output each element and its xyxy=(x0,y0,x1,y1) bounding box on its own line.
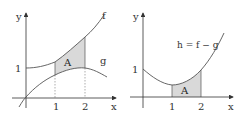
x-tick-2: 2 xyxy=(82,101,88,112)
right-panel: y x 1 1 2 h = f − g A xyxy=(130,11,234,112)
y-tick-1-right: 1 xyxy=(132,64,138,75)
x-tick-1-right: 1 xyxy=(169,101,175,112)
x-tick-1: 1 xyxy=(53,101,59,112)
y-axis-label-right: y xyxy=(132,11,139,22)
x-axis-label: x xyxy=(111,101,117,112)
region-a-label-right: A xyxy=(180,85,189,96)
curve-h-label: h = f − g xyxy=(177,40,219,50)
x-tick-2-right: 2 xyxy=(198,101,204,112)
left-panel: y x 1 1 2 f g A xyxy=(12,10,117,112)
y-tick-1: 1 xyxy=(15,63,21,74)
curve-f-label: f xyxy=(102,10,107,21)
region-a-label: A xyxy=(63,57,72,68)
x-axis-label-right: x xyxy=(228,101,234,112)
figure: y x 1 1 2 f g A y x 1 1 2 h = f − g A xyxy=(0,0,245,117)
curve-g-label: g xyxy=(100,55,107,66)
curve-g xyxy=(19,68,107,107)
y-axis-label: y xyxy=(15,11,22,22)
